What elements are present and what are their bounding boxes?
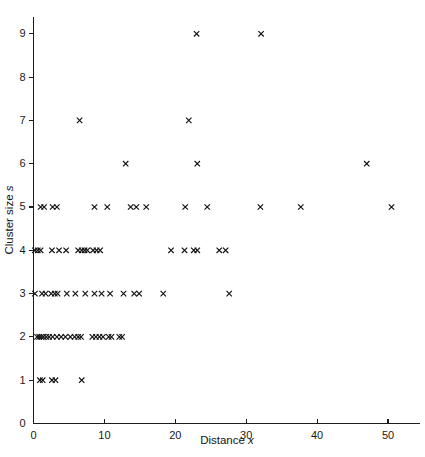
y-tick-label: 7: [19, 114, 25, 126]
x-tick-label: 50: [382, 429, 394, 441]
data-point: [38, 248, 43, 253]
data-point: [161, 291, 166, 296]
data-point: [182, 248, 187, 253]
data-point: [195, 161, 200, 166]
y-tick-label: 0: [19, 417, 25, 429]
data-point: [106, 334, 111, 339]
data-point: [53, 378, 58, 383]
y-tick-label: 9: [19, 27, 25, 39]
data-point: [52, 291, 57, 296]
data-point: [77, 118, 82, 123]
data-point: [85, 248, 90, 253]
data-point: [100, 334, 105, 339]
x-tick-label: 0: [30, 429, 36, 441]
y-axis-title: Cluster size s: [3, 185, 15, 254]
data-point: [258, 204, 263, 209]
data-point: [117, 334, 122, 339]
y-tick-label: 8: [19, 71, 25, 83]
data-point: [194, 31, 199, 36]
y-tick-label: 1: [19, 374, 25, 386]
data-point: [223, 248, 228, 253]
data-point: [63, 334, 68, 339]
data-point: [134, 204, 139, 209]
data-point: [107, 291, 112, 296]
data-point: [186, 118, 191, 123]
data-point: [195, 248, 200, 253]
data-point: [40, 378, 45, 383]
data-point: [35, 248, 40, 253]
y-tick-label: 2: [19, 330, 25, 342]
data-point: [82, 248, 87, 253]
data-point: [168, 248, 173, 253]
data-point: [364, 161, 369, 166]
data-point: [136, 291, 141, 296]
data-point: [92, 204, 97, 209]
data-point: [78, 334, 83, 339]
data-point: [44, 334, 49, 339]
data-point: [64, 291, 69, 296]
data-point: [79, 378, 84, 383]
data-point: [119, 334, 124, 339]
data-point: [217, 248, 222, 253]
data-point: [205, 204, 210, 209]
x-tick-label: 10: [98, 429, 110, 441]
x-tick-label: 40: [311, 429, 323, 441]
data-point: [92, 291, 97, 296]
y-axis-ticks: 0123456789: [19, 27, 33, 429]
data-point: [226, 291, 231, 296]
axis-lines: [34, 17, 421, 424]
data-point: [63, 248, 68, 253]
data-point: [298, 204, 303, 209]
data-point: [131, 291, 136, 296]
y-tick-label: 6: [19, 157, 25, 169]
scatter-plot-figure: 0123456789 01020304050 Cluster size s Di…: [0, 0, 425, 457]
data-point: [389, 204, 394, 209]
data-point: [79, 248, 84, 253]
data-point: [128, 204, 133, 209]
data-point: [105, 204, 110, 209]
data-point: [123, 161, 128, 166]
data-point: [99, 291, 104, 296]
data-point: [83, 291, 88, 296]
data-point: [73, 291, 78, 296]
y-tick-label: 5: [19, 200, 25, 212]
data-point: [41, 204, 46, 209]
data-markers: [32, 31, 394, 383]
plot-canvas: 0123456789 01020304050 Cluster size s Di…: [0, 0, 425, 457]
data-point: [49, 248, 54, 253]
y-tick-label: 3: [19, 287, 25, 299]
data-point: [56, 248, 61, 253]
x-axis-title: Distance x: [200, 434, 255, 446]
data-point: [54, 204, 59, 209]
data-point: [121, 291, 126, 296]
data-point: [258, 31, 263, 36]
data-point: [75, 334, 80, 339]
data-point: [144, 204, 149, 209]
data-point: [97, 248, 102, 253]
x-tick-label: 20: [169, 429, 181, 441]
data-point: [109, 334, 114, 339]
data-point: [183, 204, 188, 209]
data-point: [55, 291, 60, 296]
y-tick-label: 4: [19, 244, 25, 256]
data-point: [43, 291, 48, 296]
data-point: [37, 378, 42, 383]
